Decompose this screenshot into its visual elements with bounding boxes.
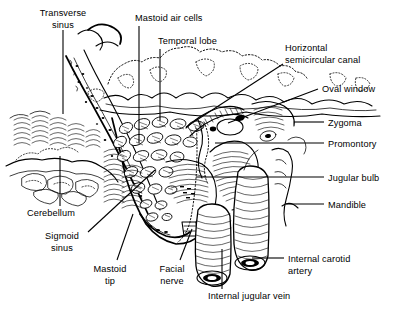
- anatomy-figure: Transversesinus Mastoid air cells Tempor…: [0, 0, 400, 311]
- internal-jugular-vein-shape: [195, 204, 231, 286]
- label-cerebellum: Cerebellum: [27, 208, 75, 218]
- label-zygoma: Zygoma: [328, 118, 363, 128]
- round-window-dot: [210, 127, 216, 132]
- label-jugular-bulb: Jugular bulb: [328, 173, 379, 183]
- label-promontory: Promontory: [328, 139, 377, 149]
- anatomy-illustration-canvas: Transversesinus Mastoid air cells Tempor…: [0, 0, 400, 311]
- label-temporal-lobe: Temporal lobe: [158, 36, 217, 46]
- label-internal-jugular-vein: Internal jugular vein: [208, 291, 290, 301]
- label-mastoid-air-cells: Mastoid air cells: [135, 13, 203, 23]
- label-mandible: Mandible: [328, 200, 366, 210]
- label-oval-window: Oval window: [322, 84, 375, 94]
